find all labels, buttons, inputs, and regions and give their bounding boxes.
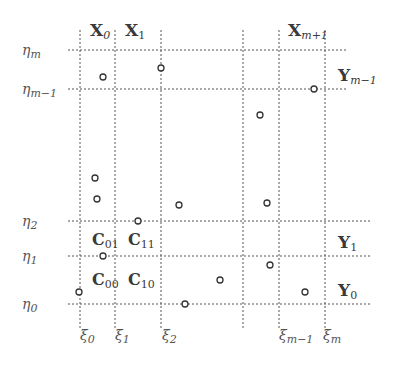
row-label-y0: Y0 (338, 282, 357, 301)
data-point (302, 289, 308, 295)
data-point (257, 112, 263, 118)
eta0-label: η0 (22, 297, 37, 314)
data-point (182, 301, 188, 307)
data-points (76, 65, 317, 307)
eta2-label: η2 (22, 214, 37, 231)
column-label-x0: X0 (90, 22, 110, 41)
row-label-y1: Y1 (338, 234, 357, 253)
column-label-x-m+1: Xm+1 (288, 22, 328, 41)
xi2-label: ξ2 (162, 328, 177, 345)
xi0-label: ξ0 (80, 328, 95, 345)
cell-label-c11: C11 (128, 232, 155, 250)
data-point (311, 86, 317, 92)
data-point (76, 289, 82, 295)
data-point (158, 65, 164, 71)
cell-label-c00: C00 (92, 272, 119, 290)
eta-m-label: ηm (22, 43, 41, 60)
eta1-label: η1 (22, 249, 37, 266)
data-point (264, 200, 270, 206)
eta-m-1-label: ηm−1 (22, 82, 57, 99)
grid-diagram (0, 0, 406, 365)
data-point (267, 262, 273, 268)
data-point (176, 202, 182, 208)
xi-m-1-label: ξm−1 (279, 328, 313, 345)
data-point (92, 175, 98, 181)
row-label-y-m-1: Ym−1 (338, 67, 377, 86)
cell-label-c01: C01 (92, 232, 119, 250)
data-point (94, 196, 100, 202)
xi-m-label: ξm (323, 328, 341, 345)
data-point (100, 74, 106, 80)
data-point (135, 218, 141, 224)
data-point (217, 277, 223, 283)
data-point (100, 253, 106, 259)
cell-label-c10: C10 (128, 272, 155, 290)
column-label-x1: X1 (125, 22, 145, 41)
xi1-label: ξ1 (115, 328, 130, 345)
